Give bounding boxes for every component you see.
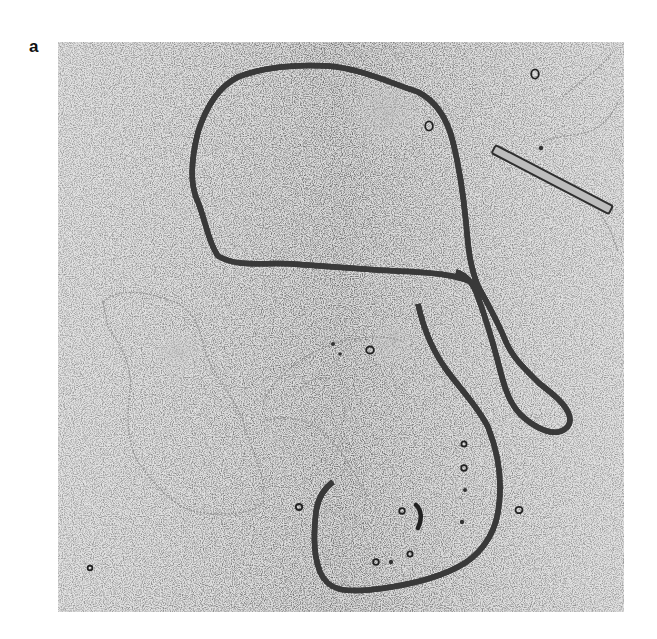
panel-label: a — [29, 38, 38, 55]
stain-blotch — [150, 328, 206, 376]
electron-micrograph — [58, 42, 624, 612]
stain-blotch — [367, 316, 419, 368]
micrograph-svg — [58, 42, 624, 612]
vignette — [58, 42, 624, 612]
